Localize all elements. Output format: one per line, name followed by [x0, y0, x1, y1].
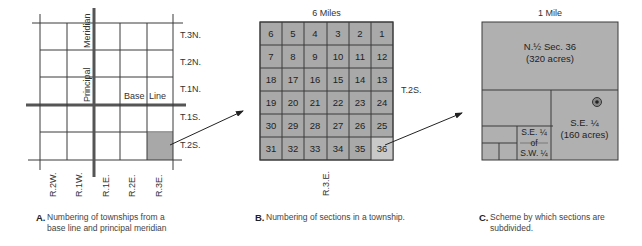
section-cell: 2: [349, 22, 371, 45]
section-cell: 19: [260, 91, 282, 114]
township-label-t1n: T.1N.: [180, 84, 201, 94]
north-half-title: N.½ Sec. 36: [482, 41, 618, 53]
section-cell: 20: [282, 91, 304, 114]
section-cell: 8: [282, 45, 304, 68]
section-cell: 12: [371, 45, 393, 68]
section-cell: 30: [260, 114, 282, 137]
township-label-t1s: T.1S.: [180, 112, 201, 122]
section-cell: 9: [304, 45, 326, 68]
se-of-sw-line3: S.W. ¼: [517, 148, 551, 159]
section-cell: 26: [349, 114, 371, 137]
section-cell: 15: [327, 68, 349, 91]
panel-b-title: 6 Miles: [260, 8, 393, 18]
section-cell: 28: [304, 114, 326, 137]
section-cell: 3: [327, 22, 349, 45]
section-cell: 13: [371, 68, 393, 91]
section-cell: 34: [327, 137, 349, 160]
caption-b-letter: B.: [255, 212, 265, 223]
north-half-acres: (320 acres): [482, 53, 618, 65]
range-label-r3e-b: R.3.E.: [321, 171, 331, 196]
township-label-t2n: T.2N.: [180, 57, 201, 67]
se-quarter-label: S.E. ¼ (160 acres): [551, 117, 618, 141]
panel-c-title: 1 Mile: [482, 8, 618, 18]
section-cell: 16: [304, 68, 326, 91]
se-of-sw-line1: S.E. ¼: [517, 127, 551, 138]
arrow-b-to-c: [385, 113, 462, 145]
section-cell: 18: [260, 68, 282, 91]
base-label: Base: [124, 91, 145, 101]
section-cell: 24: [371, 91, 393, 114]
section-cell: 27: [327, 114, 349, 137]
section-cell: 31: [260, 137, 282, 160]
caption-c: C. Scheme by which sections are subdivid…: [479, 212, 629, 234]
section-cell: 29: [282, 114, 304, 137]
range-label-r1w: R.1W.: [74, 172, 84, 197]
section-cell: 1: [371, 22, 393, 45]
section-cell: 7: [260, 45, 282, 68]
caption-a-letter: A.: [36, 212, 46, 223]
caption-c-text: Scheme by which sections are subdivided.: [490, 212, 629, 234]
section-cell: 35: [349, 137, 371, 160]
section-cell: 10: [327, 45, 349, 68]
section-cell: 17: [282, 68, 304, 91]
section-cell: 4: [304, 22, 326, 45]
line-label: Line: [149, 91, 166, 101]
section-cell: 6: [260, 22, 282, 45]
meridian-label: Meridian: [82, 13, 92, 48]
range-label-r2e: R.2E.: [127, 174, 137, 197]
section-numbers: 6 5 4 3 2 1 7 8 9 10 11 12 18 17 16 15 1…: [260, 22, 393, 160]
section-cell: 14: [349, 68, 371, 91]
township-label-t3n: T.3N.: [180, 30, 201, 40]
north-half-label: N.½ Sec. 36 (320 acres): [482, 41, 618, 65]
section-cell: 33: [304, 137, 326, 160]
caption-a: A. Numbering of townships from a base li…: [36, 212, 176, 234]
se-of-sw-line2: of: [517, 138, 551, 149]
section-cell: 32: [282, 137, 304, 160]
caption-b: B. Numbering of sections in a township.: [255, 212, 405, 223]
section-cell: 11: [349, 45, 371, 68]
section-cell: 36: [371, 137, 393, 160]
section-cell: 22: [327, 91, 349, 114]
range-label-r1e: R.1E.: [101, 174, 111, 197]
township-label-t2s: T.2S.: [180, 140, 201, 150]
caption-c-letter: C.: [479, 212, 489, 223]
section-cell: 21: [304, 91, 326, 114]
se-quarter-acres: (160 acres): [551, 129, 618, 141]
township-label-t2s-b: T.2S.: [401, 85, 422, 95]
section-cell: 25: [371, 114, 393, 137]
section-cell: 5: [282, 22, 304, 45]
caption-a-text: Numbering of townships from a base line …: [47, 212, 176, 234]
principal-label: Principal: [82, 67, 92, 102]
range-label-r2w: R.2W.: [48, 172, 58, 197]
section-cell: 23: [349, 91, 371, 114]
se-quarter-title: S.E. ¼: [551, 117, 618, 129]
range-label-r3e: R.3E.: [154, 174, 164, 197]
se-of-sw-label: S.E. ¼ of S.W. ¼: [517, 127, 551, 159]
highlighted-township: [147, 133, 173, 160]
caption-b-text: Numbering of sections in a township.: [266, 212, 405, 223]
